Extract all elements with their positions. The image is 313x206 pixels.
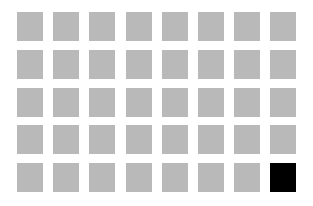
grid-tile[interactable] [89, 88, 115, 117]
grid-tile[interactable] [126, 125, 152, 154]
grid-tile[interactable] [234, 125, 260, 154]
grid-tile[interactable] [198, 50, 224, 79]
grid-tile[interactable] [126, 163, 152, 192]
grid-tile[interactable] [17, 12, 43, 41]
grid-tile[interactable] [162, 50, 188, 79]
grid-tile[interactable] [89, 50, 115, 79]
grid-tile[interactable] [17, 163, 43, 192]
grid-tile[interactable] [234, 12, 260, 41]
grid-tile-selected[interactable] [270, 163, 296, 192]
grid-tile[interactable] [270, 125, 296, 154]
grid-tile[interactable] [198, 88, 224, 117]
grid-tile[interactable] [17, 88, 43, 117]
grid-tile[interactable] [270, 88, 296, 117]
grid-tile[interactable] [198, 12, 224, 41]
grid-tile[interactable] [126, 88, 152, 117]
grid-tile[interactable] [162, 163, 188, 192]
grid-tile[interactable] [89, 12, 115, 41]
grid-tile[interactable] [162, 12, 188, 41]
grid-tile[interactable] [17, 50, 43, 79]
grid-tile[interactable] [53, 163, 79, 192]
grid-tile[interactable] [89, 163, 115, 192]
grid-tile[interactable] [198, 125, 224, 154]
grid-tile[interactable] [53, 12, 79, 41]
grid-tile[interactable] [162, 88, 188, 117]
grid-tile[interactable] [270, 50, 296, 79]
grid-tile[interactable] [53, 88, 79, 117]
grid-tile[interactable] [89, 125, 115, 154]
grid-tile[interactable] [198, 163, 224, 192]
grid-tile[interactable] [126, 50, 152, 79]
grid-tile[interactable] [234, 163, 260, 192]
grid-tile[interactable] [53, 125, 79, 154]
grid-tile[interactable] [17, 125, 43, 154]
grid-tile[interactable] [234, 88, 260, 117]
grid-tile[interactable] [126, 12, 152, 41]
grid-tile[interactable] [162, 125, 188, 154]
grid-tile[interactable] [270, 12, 296, 41]
grid-tile[interactable] [53, 50, 79, 79]
tile-grid [17, 12, 296, 192]
grid-tile[interactable] [234, 50, 260, 79]
